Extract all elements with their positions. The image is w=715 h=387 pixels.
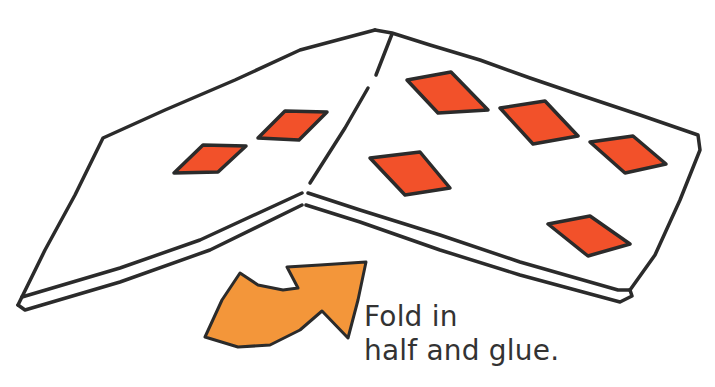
diamond-shape	[500, 101, 578, 144]
instruction-caption: Fold in half and glue.	[364, 300, 559, 368]
folded-card-illustration	[0, 0, 715, 387]
diamond-shape	[590, 136, 666, 173]
diamond-shape	[407, 72, 488, 113]
diamond-shape	[258, 111, 327, 140]
fold-arrow-icon	[205, 262, 366, 347]
caption-line-1: Fold in	[364, 300, 559, 334]
caption-line-2: half and glue.	[364, 334, 559, 368]
fold-crease-line	[376, 34, 392, 75]
left-panel-bottom-edge	[22, 193, 302, 297]
fold-crease-line-lower	[310, 88, 368, 183]
diamond-shape	[548, 216, 630, 256]
diamond-shape	[174, 145, 246, 173]
diamond-shape	[370, 152, 450, 195]
